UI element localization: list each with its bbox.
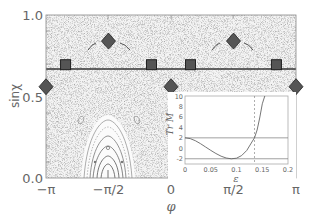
y-axis-label: sinχ bbox=[8, 84, 22, 108]
inset-y-tick-label: -2 bbox=[177, 155, 183, 163]
y-tick-label: 1.0 bbox=[22, 8, 43, 23]
x-axis-label: φ bbox=[166, 199, 176, 214]
inset-y-axis-label: Tr M bbox=[165, 112, 175, 135]
inset-x-tick-label: 0 bbox=[183, 166, 187, 174]
inset-x-tick-label: 0.15 bbox=[255, 166, 269, 174]
y-tick-label: 0.5 bbox=[22, 90, 43, 105]
inset-y-tick-label: 0 bbox=[179, 145, 183, 153]
square-marker bbox=[147, 60, 157, 70]
inset-y-tick-label: 8 bbox=[179, 103, 183, 111]
square-marker bbox=[185, 60, 195, 70]
inset-x-tick-label: 0.2 bbox=[283, 166, 293, 174]
poincare-chart: 00.050.10.150.2-20246810εTr M −π−π/20π/2… bbox=[0, 0, 315, 219]
square-marker bbox=[271, 60, 281, 70]
square-marker bbox=[61, 60, 71, 70]
inset-chart: 00.050.10.150.2-20246810εTr M bbox=[165, 92, 296, 186]
y-tick-label: 0.0 bbox=[22, 171, 43, 186]
x-tick-label: 0 bbox=[167, 182, 175, 197]
inset-y-tick-label: 6 bbox=[179, 113, 183, 121]
inset-y-tick-label: 4 bbox=[179, 124, 183, 132]
inset-y-tick-label: 10 bbox=[175, 93, 183, 101]
inset-y-tick-label: 2 bbox=[179, 134, 183, 142]
x-tick-label: π/2 bbox=[223, 182, 243, 197]
x-tick-label: π bbox=[292, 182, 300, 197]
x-tick-label: −π/2 bbox=[93, 182, 124, 197]
inset-x-tick-label: 0.05 bbox=[204, 166, 218, 174]
